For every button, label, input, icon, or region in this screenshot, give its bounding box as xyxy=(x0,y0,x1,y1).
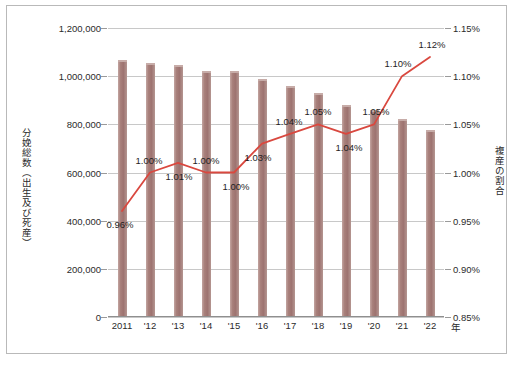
plot-area: 0.96%1.00%1.01%1.00%1.00%1.03%1.04%1.05%… xyxy=(108,28,444,317)
data-label: 1.04% xyxy=(336,142,363,153)
x-axis-tick-label: '21 xyxy=(396,320,408,331)
y-axis-right-tick-label: 1.00% xyxy=(453,167,480,178)
gridline xyxy=(108,317,444,318)
data-label: 1.05% xyxy=(305,106,332,117)
line-series xyxy=(108,28,444,317)
x-axis-tick-label: '14 xyxy=(200,320,212,331)
y-axis-left-tick-label: 200,000 xyxy=(67,263,101,274)
y-axis-right-tick-label: 1.05% xyxy=(453,119,480,130)
x-axis-tick-label: '22 xyxy=(424,320,436,331)
axis-tick xyxy=(101,28,107,29)
data-label: 1.00% xyxy=(223,180,250,191)
x-axis-labels: 2011'12'13'14'15'16'17'18'19'20'21'22 xyxy=(108,320,444,336)
data-label: 1.00% xyxy=(193,154,220,165)
axis-tick xyxy=(445,221,451,222)
x-axis-tick-label: '20 xyxy=(368,320,380,331)
chart-frame: 分娩総数（出生及び死産） 複産の割合 0200,000400,000600,00… xyxy=(6,5,507,354)
y-axis-left-tick-label: 800,000 xyxy=(67,119,101,130)
axis-tick xyxy=(101,124,107,125)
y-axis-left-tick-label: 1,000,000 xyxy=(59,71,101,82)
axis-tick xyxy=(445,269,451,270)
x-axis-tick-label: '19 xyxy=(340,320,352,331)
data-label: 1.04% xyxy=(276,116,303,127)
axis-tick xyxy=(101,76,107,77)
x-axis-tick-label: 2011 xyxy=(112,320,132,331)
y-axis-right-tick-label: 1.10% xyxy=(453,71,480,82)
axis-tick xyxy=(445,173,451,174)
y-axis-left-tick-label: 600,000 xyxy=(67,167,101,178)
axis-tick xyxy=(445,28,451,29)
y-axis-left-title: 分娩総数（出生及び死産） xyxy=(21,128,32,248)
data-label: 1.01% xyxy=(166,170,193,181)
y-axis-left-labels: 0200,000400,000600,000800,0001,000,0001,… xyxy=(37,28,101,317)
axis-tick xyxy=(101,269,107,270)
x-axis-line xyxy=(108,316,444,317)
data-label: 0.96% xyxy=(107,219,134,230)
data-label: 1.00% xyxy=(136,154,163,165)
x-axis-tick-label: '18 xyxy=(312,320,324,331)
y-axis-left-tick-label: 400,000 xyxy=(67,215,101,226)
y-axis-left-tick-label: 1,200,000 xyxy=(59,23,101,34)
x-axis-tick-label: '16 xyxy=(256,320,268,331)
x-axis-tick-label: '13 xyxy=(172,320,184,331)
line-path xyxy=(122,57,430,211)
x-axis-tick-label: '15 xyxy=(228,320,240,331)
data-label: 1.12% xyxy=(419,38,446,49)
axis-tick xyxy=(101,317,107,318)
x-axis-tick-label: '17 xyxy=(284,320,296,331)
axis-tick xyxy=(445,317,451,318)
x-axis-unit-label: 年 xyxy=(451,320,461,334)
data-label: 1.05% xyxy=(363,106,390,117)
data-label: 1.10% xyxy=(385,58,412,69)
y-axis-right-tick-label: 0.90% xyxy=(453,263,480,274)
y-axis-right-tick-label: 1.15% xyxy=(453,23,480,34)
x-axis-tick-label: '12 xyxy=(144,320,156,331)
axis-tick xyxy=(445,76,451,77)
axis-tick xyxy=(445,124,451,125)
y-axis-right-tick-label: 0.95% xyxy=(453,215,480,226)
axis-tick xyxy=(101,173,107,174)
y-axis-right-labels: 0.85%0.90%0.95%1.00%1.05%1.10%1.15% xyxy=(453,28,513,317)
data-label: 1.03% xyxy=(245,151,272,162)
